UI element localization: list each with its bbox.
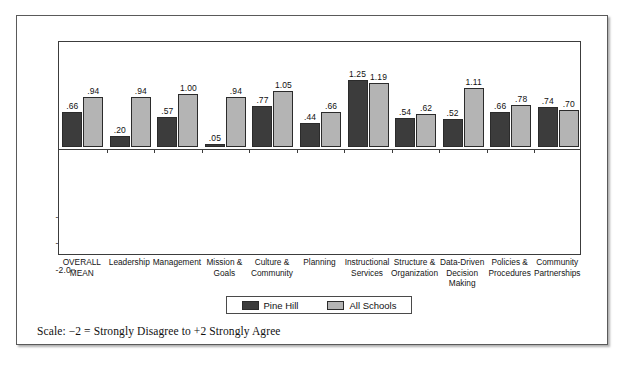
legend-label-pine-hill: Pine Hill	[264, 300, 299, 311]
bar-group: .571.00	[157, 42, 198, 254]
bar-all	[464, 88, 484, 147]
bar-value-label: .70	[556, 99, 582, 109]
bar-value-label: .77	[249, 95, 275, 105]
bar-group: .771.05	[252, 42, 293, 254]
bar-group: .05.94	[205, 42, 246, 254]
x-axis-tick-mark	[534, 149, 535, 153]
bar-value-label: 1.19	[366, 72, 392, 82]
bar-pine	[443, 119, 463, 147]
x-axis-category-label: Community Partnerships	[529, 257, 585, 278]
bar-all	[178, 94, 198, 148]
x-axis-tick-mark	[202, 149, 203, 153]
x-axis-tick-mark	[107, 149, 108, 153]
bar-value-label: .94	[223, 86, 249, 96]
bar-value-label: .57	[154, 106, 180, 116]
bar-pine	[157, 117, 177, 147]
bar-value-label: .20	[107, 125, 133, 135]
x-axis-tick-mark	[249, 149, 250, 153]
bar-group: .66.94	[62, 42, 103, 254]
bar-value-label: .94	[80, 86, 106, 96]
x-axis-tick-mark	[439, 149, 440, 153]
bar-value-label: 1.00	[175, 83, 201, 93]
bar-group: .20.94	[110, 42, 151, 254]
bar-all	[131, 97, 151, 147]
bar-value-label: .44	[297, 112, 323, 122]
bar-all	[369, 83, 389, 147]
chart-legend: Pine Hill All Schools	[226, 296, 412, 314]
bar-pine	[205, 144, 225, 147]
bar-pine	[538, 107, 558, 147]
scale-note: Scale: −2 = Strongly Disagree to +2 Stro…	[37, 325, 281, 337]
bar-value-label: 1.05	[270, 80, 296, 90]
bar-pine	[490, 112, 510, 147]
bar-group: .74.70	[538, 42, 579, 254]
legend-entry-all-schools: All Schools	[327, 300, 396, 311]
legend-entry-pine-hill: Pine Hill	[242, 300, 299, 311]
legend-label-all-schools: All Schools	[349, 300, 396, 311]
legend-swatch-all-schools	[327, 301, 344, 310]
bar-all	[273, 91, 293, 147]
bar-value-label: .52	[440, 108, 466, 118]
bar-pine	[252, 106, 272, 147]
plot-area: .66.94.20.94.571.00.05.94.771.05.44.661.…	[58, 41, 581, 255]
bar-all	[83, 97, 103, 147]
bar-value-label: .62	[413, 103, 439, 113]
bar-all	[511, 105, 531, 147]
bar-pine	[395, 118, 415, 147]
bar-group: .66.78	[490, 42, 531, 254]
bar-group: .54.62	[395, 42, 436, 254]
x-axis-tick-mark	[392, 149, 393, 153]
bar-all	[226, 97, 246, 147]
bar-value-label: .94	[128, 86, 154, 96]
x-axis-tick-mark	[487, 149, 488, 153]
bar-group: .521.11	[443, 42, 484, 254]
bar-group: .44.66	[300, 42, 341, 254]
bar-all	[416, 114, 436, 147]
bar-pine	[300, 123, 320, 147]
bar-group: 1.251.19	[348, 42, 389, 254]
bar-pine	[62, 112, 82, 147]
bar-value-label: .66	[59, 101, 85, 111]
bar-all	[559, 110, 579, 147]
bar-all	[321, 112, 341, 147]
bar-value-label: .66	[318, 101, 344, 111]
bar-pine	[348, 80, 368, 147]
legend-swatch-pine-hill	[242, 301, 259, 310]
bar-value-label: .78	[508, 94, 534, 104]
bar-value-label: 1.11	[461, 77, 487, 87]
plot-inner: .66.94.20.94.571.00.05.94.771.05.44.661.…	[59, 42, 580, 254]
bar-pine	[110, 136, 130, 147]
x-axis-tick-mark	[344, 149, 345, 153]
bar-value-label: .05	[202, 133, 228, 143]
x-axis-tick-mark	[154, 149, 155, 153]
x-axis-tick-mark	[297, 149, 298, 153]
chart-figure-frame: 2.01.51.0.5.0-.5-1.0-1.5-2.0 .66.94.20.9…	[16, 15, 608, 345]
